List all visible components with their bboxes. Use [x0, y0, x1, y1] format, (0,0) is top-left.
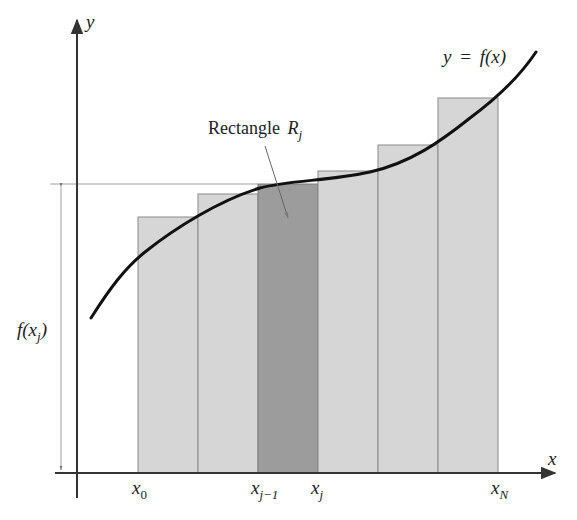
rectangle-rj-highlighted — [258, 184, 318, 473]
x-axis-label: x — [547, 448, 557, 469]
tick-label-xn: xN — [490, 477, 509, 502]
riemann-sum-diagram: y x y = f(x) Rectangle Rj f(xj) x0 xj−1 … — [0, 0, 577, 520]
rectangles — [138, 98, 498, 473]
rectangle-6 — [438, 98, 498, 473]
tick-label-x0: x0 — [131, 477, 147, 502]
tick-label-xj: xj — [310, 477, 323, 502]
rectangle-rj-label: Rectangle Rj — [208, 118, 302, 142]
y-axis-label: y — [84, 11, 95, 32]
fxj-label: f(xj) — [17, 319, 47, 344]
tick-label-xj-minus-1: xj−1 — [250, 477, 278, 502]
rectangle-2 — [198, 194, 258, 473]
rectangle-1 — [138, 217, 198, 473]
curve-label: y = f(x) — [441, 46, 506, 68]
rectangle-5 — [378, 145, 438, 473]
rectangle-4 — [318, 171, 378, 473]
